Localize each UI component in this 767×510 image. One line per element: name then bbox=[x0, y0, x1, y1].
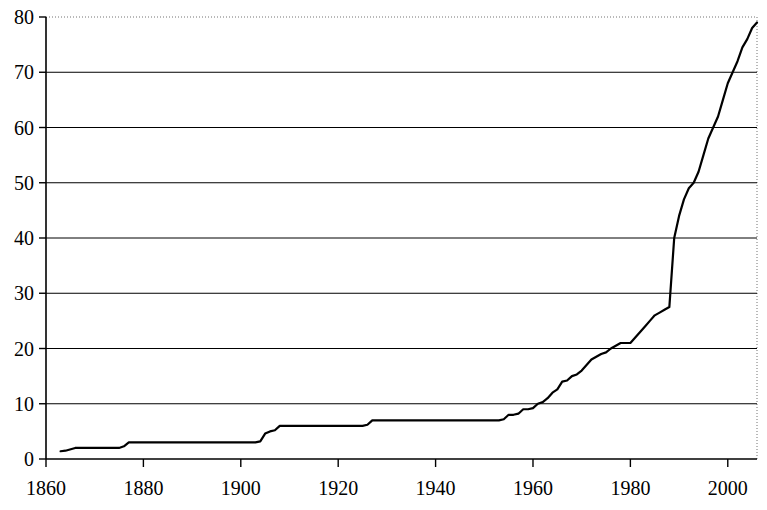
x-tick-label-1940: 1940 bbox=[391, 478, 481, 498]
x-tick-label-1860: 1860 bbox=[1, 478, 91, 498]
x-tick-label-1980: 1980 bbox=[585, 478, 675, 498]
y-tick-label-0: 0 bbox=[0, 449, 34, 469]
chart-container: 01020304050607080 1860188019001920194019… bbox=[0, 0, 767, 510]
gridlines-group bbox=[46, 17, 757, 459]
data-series-line bbox=[61, 23, 757, 452]
x-tick-label-2000: 2000 bbox=[683, 478, 767, 498]
y-tick-label-40: 40 bbox=[0, 228, 34, 248]
tick-marks-group bbox=[39, 17, 728, 467]
y-tick-label-60: 60 bbox=[0, 118, 34, 138]
y-tick-label-30: 30 bbox=[0, 283, 34, 303]
x-tick-label-1960: 1960 bbox=[488, 478, 578, 498]
plot-area bbox=[0, 0, 767, 510]
x-tick-label-1920: 1920 bbox=[293, 478, 383, 498]
y-tick-label-70: 70 bbox=[0, 62, 34, 82]
x-tick-label-1880: 1880 bbox=[98, 478, 188, 498]
y-tick-label-80: 80 bbox=[0, 7, 34, 27]
y-tick-label-20: 20 bbox=[0, 339, 34, 359]
y-tick-label-10: 10 bbox=[0, 394, 34, 414]
y-tick-label-50: 50 bbox=[0, 173, 34, 193]
x-tick-label-1900: 1900 bbox=[196, 478, 286, 498]
